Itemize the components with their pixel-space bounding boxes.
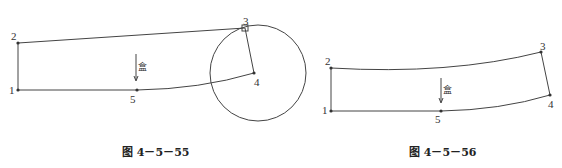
label-5: 5 bbox=[435, 113, 441, 125]
label-2: 2 bbox=[11, 30, 17, 42]
edge-2-3 bbox=[18, 28, 245, 43]
label-1: 1 bbox=[322, 104, 328, 116]
diagram-canvas: 1 2 3 4 5 盒 1 2 3 4 5 盒 bbox=[0, 0, 562, 168]
label-3: 3 bbox=[540, 40, 546, 52]
grain-glyph: 盒 bbox=[138, 61, 147, 72]
point-2 bbox=[16, 41, 19, 44]
grain-glyph: 盒 bbox=[443, 84, 452, 95]
label-2: 2 bbox=[325, 55, 331, 67]
edge-3-4 bbox=[245, 28, 254, 73]
point-5 bbox=[135, 88, 138, 91]
figure-caption-56: 图 4－5－56 bbox=[409, 143, 476, 159]
label-5: 5 bbox=[130, 93, 136, 105]
label-4: 4 bbox=[548, 98, 554, 110]
edge-3-4 bbox=[541, 52, 550, 95]
point-4 bbox=[548, 93, 551, 96]
figure-4-5-55 bbox=[18, 25, 306, 121]
point-1 bbox=[16, 88, 19, 91]
figure-4-5-56 bbox=[331, 52, 550, 111]
label-1: 1 bbox=[9, 84, 15, 96]
construction-circle bbox=[210, 25, 306, 121]
label-3: 3 bbox=[243, 15, 249, 27]
label-4: 4 bbox=[254, 76, 260, 88]
point-1 bbox=[329, 109, 332, 112]
edge-2-3-curve bbox=[331, 52, 541, 70]
figure-caption-55: 图 4－5－55 bbox=[122, 143, 189, 159]
point-4 bbox=[252, 71, 255, 74]
